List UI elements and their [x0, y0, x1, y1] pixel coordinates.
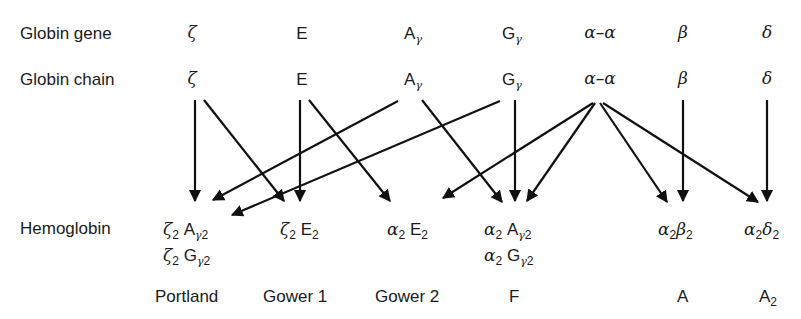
hb-portland-formula-2: ζ2 Gγ2 — [163, 245, 210, 266]
arrows-layer — [0, 0, 801, 319]
hb-F-formula-2: α2 Gγ2 — [484, 245, 533, 266]
hb-gower2-formula: α2 E2 — [387, 219, 428, 240]
arrow-alpha-gower2 — [443, 103, 593, 198]
hb-name-gower1: Gower 1 — [263, 287, 327, 307]
arrow-alpha-A — [600, 103, 667, 202]
hb-name-A2: A2 — [759, 287, 777, 307]
hb-portland-formula-1: ζ2 Aγ2 — [163, 219, 208, 240]
arrow-alpha-F — [527, 103, 595, 201]
arrow-Agamma-portland — [213, 101, 398, 200]
arrow-alpha-A2 — [603, 103, 758, 202]
arrow-E-gower2 — [309, 100, 390, 201]
arrow-zeta-gower1 — [204, 100, 284, 201]
hb-name-A: A — [677, 287, 688, 307]
hb-A-formula: α2β2 — [658, 219, 693, 240]
hb-name-portland: Portland — [155, 287, 218, 307]
hb-A2-formula: α2δ2 — [744, 219, 779, 240]
hb-name-F: F — [509, 287, 519, 307]
hb-name-gower2: Gower 2 — [375, 287, 439, 307]
hb-gower1-formula: ζ2 E2 — [280, 219, 319, 240]
hb-F-formula-1: α2 Aγ2 — [484, 219, 532, 240]
